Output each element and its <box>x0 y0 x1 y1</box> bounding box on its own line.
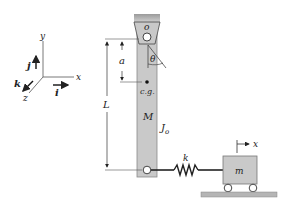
y-axis-label: y <box>39 31 46 41</box>
spring: k <box>151 153 223 175</box>
dimensions: a L <box>102 39 142 170</box>
pivot-support <box>134 14 160 22</box>
spring-coil-icon <box>174 165 198 175</box>
pivot-label: o <box>144 22 150 32</box>
cg-label: c.g. <box>140 87 155 96</box>
cart-mass-label: m <box>235 166 244 176</box>
spring-constant-label: k <box>183 153 188 163</box>
ground-surface <box>201 192 277 197</box>
cart-wheel-right-icon <box>249 184 257 192</box>
i-unit-label: i <box>55 87 59 98</box>
inertia-label: Jo <box>159 122 169 136</box>
k-unit-label: k <box>14 78 21 89</box>
pivot-pin-icon <box>143 33 151 41</box>
displacement-x-label: x <box>253 139 258 149</box>
z-axis-line <box>29 77 43 93</box>
angle-label: θ <box>150 54 156 64</box>
pendulum: o θ c.g. M Jo <box>134 14 169 177</box>
k-unit-arrow-icon <box>23 81 33 91</box>
diagram-canvas: y x z j i k o θ c.g. M Jo a L <box>0 0 291 210</box>
distance-a-label: a <box>119 55 125 66</box>
x-axis-label: x <box>76 72 81 82</box>
length-L-label: L <box>102 99 110 110</box>
lower-pin-icon <box>143 166 151 174</box>
cart-wheel-left-icon <box>224 184 232 192</box>
z-axis-label: z <box>22 93 28 103</box>
mass-label-M: M <box>142 111 154 122</box>
cg-dot-icon <box>145 80 149 84</box>
cart: m x <box>201 139 277 197</box>
coordinate-axes: y x z j i k <box>14 31 81 103</box>
j-unit-label: j <box>25 60 31 71</box>
